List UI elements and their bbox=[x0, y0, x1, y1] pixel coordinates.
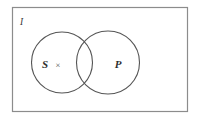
member-cross-mark: × bbox=[56, 60, 61, 70]
universe-rectangle bbox=[13, 8, 188, 112]
circle-s-label: S bbox=[42, 58, 48, 70]
venn-diagram-canvas: I S × P bbox=[0, 0, 201, 122]
euler-venn-diagram: I S × P bbox=[0, 0, 201, 122]
circle-p-label: P bbox=[115, 58, 122, 70]
